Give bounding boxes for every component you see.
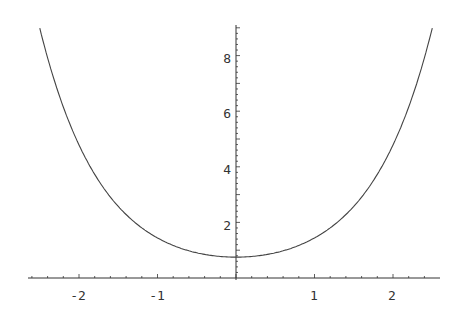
x-tick-label: -2 xyxy=(70,288,86,303)
x-tick-label: -1 xyxy=(149,288,165,303)
x-tick-label: 2 xyxy=(388,288,396,303)
x-tick-label: 1 xyxy=(310,288,318,303)
x-axis xyxy=(28,274,440,278)
y-tick-label: 8 xyxy=(223,51,231,66)
y-tick-label: 4 xyxy=(223,162,231,177)
y-tick-label: 6 xyxy=(223,106,231,121)
y-tick-label: 2 xyxy=(223,218,231,233)
y-axis xyxy=(236,25,240,280)
plot: -2 -1 1 2 2 4 6 8 xyxy=(0,0,467,316)
